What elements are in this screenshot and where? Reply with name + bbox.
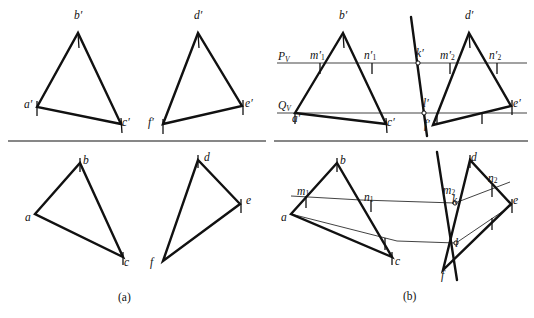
point-label-d-prime-b-top: d′ <box>465 10 473 22</box>
point-marker-l-prime <box>422 111 426 115</box>
triangle-abc-panel_a_bottom <box>35 163 123 257</box>
point-label-b-b-bottom: b <box>340 155 346 167</box>
point-label-l-prime-b-top: l′ <box>423 98 429 110</box>
point-label-m2-prime-b-top: m′2 <box>440 50 455 62</box>
point-label-c-prime-a-top: c′ <box>122 117 130 129</box>
point-label-c-a-bottom: c <box>124 257 129 269</box>
geometry-drawing-canvas <box>0 0 534 318</box>
point-label-l-b-bottom: l <box>455 238 458 250</box>
point-label-a-prime-a-top: a′ <box>24 99 32 111</box>
point-label-d-b-bottom: d <box>471 152 477 164</box>
triangle-abc-prime-panel_b_top <box>295 33 386 124</box>
point-label-c-b-bottom: c <box>395 256 400 268</box>
point-label-f-prime-a-top: f′ <box>148 117 154 129</box>
figure-root: PV QV a′b′c′d′e′f′abcdefa′b′c′d′e′f′m′1n… <box>0 0 534 318</box>
point-label-m1-prime-b-top: m′1 <box>310 50 325 62</box>
point-label-n2-b-bottom: n2 <box>488 173 498 185</box>
point-label-d-prime-a-top: d′ <box>194 10 202 22</box>
point-label-e-prime-b-top: e′ <box>513 98 521 110</box>
point-label-e-b-bottom: e <box>513 195 518 207</box>
triangle-abc-panel_b_bottom <box>291 163 392 257</box>
point-label-n1-prime-b-top: n′1 <box>364 50 376 62</box>
pv-trace-label: PV <box>278 50 290 64</box>
point-label-a-prime-b-top: a′ <box>292 113 300 125</box>
point-label-b-prime-a-top: b′ <box>74 10 82 22</box>
point-label-f-b-bottom: f <box>441 270 444 282</box>
point-label-n1-b-bottom: n1 <box>364 192 374 204</box>
point-label-k-prime-b-top: k′ <box>416 48 424 60</box>
point-marker-k-prime <box>416 61 420 65</box>
triangle-def-panel_a_bottom <box>163 160 240 261</box>
point-label-a-b-bottom: a <box>281 212 287 224</box>
point-label-e-a-bottom: e <box>246 195 251 207</box>
kl-line-bottom <box>437 152 457 280</box>
point-label-m2-b-bottom: m2 <box>443 185 455 197</box>
point-label-c-prime-b-top: c′ <box>387 117 395 129</box>
point-label-f-a-bottom: f <box>150 257 153 269</box>
panel-caption-b: (b) <box>403 290 416 302</box>
point-label-f-prime-b-top: f′ <box>424 119 430 131</box>
triangle-def-prime-panel_b_top <box>433 33 511 125</box>
point-label-b-prime-b-top: b′ <box>339 10 347 22</box>
alf-thin-line <box>291 205 512 243</box>
point-label-a-a-bottom: a <box>25 212 31 224</box>
point-label-n2-prime-b-top: n′2 <box>489 50 501 62</box>
point-label-e-prime-a-top: e′ <box>245 98 253 110</box>
point-label-b-a-bottom: b <box>83 155 89 167</box>
triangle-def-prime-panel_a_top <box>163 33 242 124</box>
mnk-thin-line <box>291 182 510 203</box>
qv-trace-label: QV <box>278 99 291 113</box>
panel-caption-a: (a) <box>118 291 131 303</box>
point-label-d-a-bottom: d <box>204 152 210 164</box>
point-label-m1-b-bottom: m1 <box>297 186 309 198</box>
